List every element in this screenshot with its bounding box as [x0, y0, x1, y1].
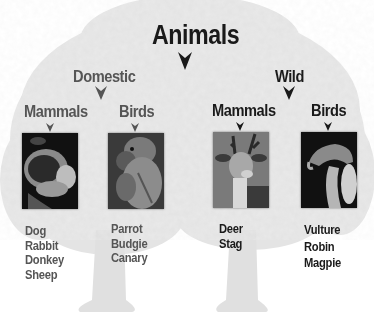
parrot-photo [108, 133, 164, 209]
list-item: Dog [25, 224, 64, 239]
list-wild-mammals: Deer Stag [219, 222, 243, 251]
list-domestic-birds: Parrot Budgie Canary [111, 222, 147, 266]
group-wild-mammals-label: Mammals [212, 101, 276, 121]
arrow-down-icon [178, 52, 192, 70]
dog-photo [22, 133, 78, 209]
list-item: Sheep [25, 268, 64, 283]
list-item: Parrot [111, 222, 147, 237]
branch-domestic-label: Domestic [73, 67, 135, 87]
arrow-down-icon [95, 86, 107, 100]
group-wild-birds-label: Birds [311, 101, 346, 121]
group-domestic-mammals-label: Mammals [24, 102, 88, 122]
arrow-down-icon [131, 123, 139, 132]
list-item: Robin [304, 239, 341, 256]
arrow-down-icon [46, 123, 54, 132]
list-item: Stag [219, 237, 243, 252]
list-item: Canary [111, 251, 147, 266]
list-item: Magpie [304, 255, 341, 272]
arrow-down-icon [236, 122, 244, 131]
vulture-photo [301, 132, 357, 208]
branch-wild-label: Wild [275, 67, 304, 87]
arrow-down-icon [324, 122, 332, 131]
arrow-down-icon [283, 86, 295, 100]
list-domestic-mammals: Dog Rabbit Donkey Sheep [25, 224, 64, 282]
list-item: Budgie [111, 237, 147, 252]
deer-photo [213, 132, 269, 208]
list-item: Deer [219, 222, 243, 237]
list-wild-birds: Vulture Robin Magpie [304, 222, 341, 272]
list-item: Donkey [25, 253, 64, 268]
list-item: Vulture [304, 222, 341, 239]
group-domestic-birds-label: Birds [119, 102, 154, 122]
list-item: Rabbit [25, 239, 64, 254]
root-title: Animals [152, 20, 239, 51]
